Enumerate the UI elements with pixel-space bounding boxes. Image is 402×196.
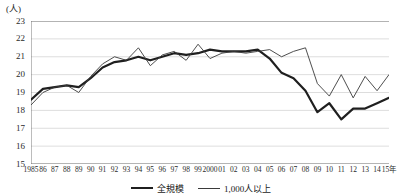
x-axis-tick-24: 09	[314, 165, 322, 174]
x-axis-tick-6: 91	[99, 165, 107, 174]
y-axis-tick-22: 22	[3, 34, 25, 43]
line-chart-svg	[31, 21, 389, 164]
x-axis-tick-28: 13	[361, 165, 369, 174]
series-layer	[31, 44, 389, 119]
x-axis-tick-2: 87	[51, 165, 59, 174]
x-axis-tick-20: 05	[266, 165, 274, 174]
y-axis-tick-21: 21	[3, 52, 25, 61]
x-axis-tick-29: 14	[373, 165, 381, 174]
y-axis-tick-15: 15	[3, 160, 25, 169]
y-axis-unit-label: (人)	[6, 2, 21, 15]
x-axis-tick-7: 92	[111, 165, 119, 174]
y-axis-tick-18: 18	[3, 106, 25, 115]
y-axis-tick-19: 19	[3, 88, 25, 97]
x-axis-tick-0: 1985	[24, 165, 39, 174]
x-axis-tick-5: 90	[87, 165, 95, 174]
x-axis-tick-layer: 1985868788899091929394959697989920000102…	[26, 165, 396, 177]
x-axis-tick-13: 98	[182, 165, 190, 174]
x-axis-tick-23: 08	[302, 165, 310, 174]
gridlines	[31, 21, 389, 164]
legend-line-icon-0	[131, 187, 153, 189]
x-axis-tick-1: 86	[39, 165, 47, 174]
x-axis-tick-8: 93	[123, 165, 131, 174]
y-axis-tick-20: 20	[3, 70, 25, 79]
x-axis-tick-19: 04	[254, 165, 262, 174]
x-axis-tick-21: 06	[278, 165, 286, 174]
x-axis-tick-3: 88	[63, 165, 71, 174]
chart-legend: 全規模1,000人以上	[0, 181, 402, 195]
legend-label-0: 全規模	[157, 182, 184, 195]
y-axis-tick-16: 16	[3, 142, 25, 151]
x-axis-tick-26: 11	[338, 165, 345, 174]
legend-label-1: 1,000人以上	[224, 182, 271, 195]
x-axis-tick-4: 89	[75, 165, 83, 174]
x-axis-tick-27: 12	[349, 165, 357, 174]
x-axis-tick-25: 10	[326, 165, 334, 174]
x-axis-tick-11: 96	[159, 165, 167, 174]
x-axis-tick-18: 03	[242, 165, 250, 174]
x-axis-tick-16: 01	[218, 165, 226, 174]
x-axis-tick-15: 2000	[203, 165, 218, 174]
x-axis-tick-30: 15年	[382, 165, 397, 174]
x-axis-tick-17: 02	[230, 165, 238, 174]
x-axis-tick-10: 95	[147, 165, 155, 174]
plot-area	[31, 21, 389, 164]
chart-figure: (人) 232221201918171615 19858687888990919…	[0, 0, 402, 196]
legend-line-icon-1	[198, 188, 220, 189]
x-axis-tick-12: 97	[170, 165, 178, 174]
legend-item-1[interactable]: 1,000人以上	[198, 182, 271, 195]
x-axis-tick-9: 94	[135, 165, 143, 174]
x-axis-tick-14: 99	[194, 165, 202, 174]
y-axis-tick-17: 17	[3, 124, 25, 133]
legend-item-0[interactable]: 全規模	[131, 182, 184, 195]
y-axis-tick-23: 23	[3, 17, 25, 26]
x-axis-tick-22: 07	[290, 165, 298, 174]
